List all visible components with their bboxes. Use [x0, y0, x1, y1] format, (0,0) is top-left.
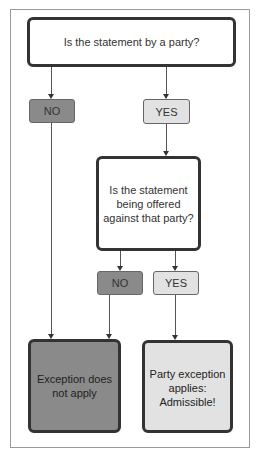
connector-line [166, 67, 167, 94]
answer-label: YES [155, 106, 177, 118]
result-text: Exception does not apply [35, 372, 114, 400]
result-box-admissible: Party exception applies: Admissible! [142, 340, 233, 433]
question-text: Is the statement being offered against t… [101, 183, 196, 225]
question-text: Is the statement by a party? [64, 35, 200, 49]
question-box-statement-by-party: Is the statement by a party? [27, 17, 236, 67]
answer-label: YES [165, 277, 187, 289]
answer-yes-box: YES [153, 271, 199, 295]
result-text: Party exception applies: Admissible! [149, 367, 226, 409]
connector-line [51, 123, 52, 334]
answer-yes-box: YES [143, 99, 190, 124]
question-box-offered-against-party: Is the statement being offered against t… [96, 156, 201, 251]
connector-line [175, 295, 176, 335]
connector-line [51, 67, 52, 94]
answer-no-box: NO [29, 99, 75, 123]
connector-line [109, 295, 110, 334]
answer-label: NO [44, 105, 61, 117]
connector-line [120, 251, 121, 266]
connector-line [175, 251, 176, 266]
answer-label: NO [112, 277, 129, 289]
connector-line [166, 124, 167, 151]
answer-no-box: NO [97, 271, 143, 295]
result-box-exception-does-not-apply: Exception does not apply [28, 339, 121, 433]
